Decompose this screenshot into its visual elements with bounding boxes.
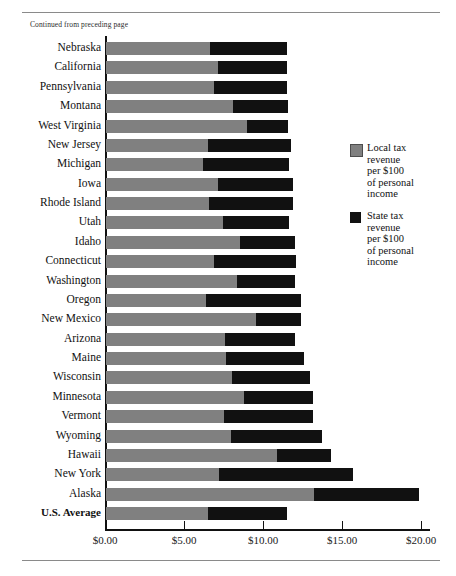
legend-swatch-local-tax (350, 144, 363, 157)
bar-segment-state-tax (218, 178, 293, 191)
bar-segment-state-tax (232, 371, 310, 384)
bar-segment-local-tax (106, 507, 208, 520)
top-divider (22, 12, 440, 13)
bar-segment-local-tax (106, 139, 208, 152)
category-label: Idaho (75, 235, 101, 247)
category-label: Connecticut (45, 254, 101, 266)
category-label: Rhode Island (40, 196, 101, 208)
category-label: Michigan (57, 157, 101, 169)
category-label: Wyoming (56, 429, 101, 441)
category-label: Alaska (69, 487, 101, 499)
category-label: Utah (79, 215, 101, 227)
bar-segment-state-tax (240, 236, 295, 249)
category-label: West Virginia (38, 119, 101, 131)
legend-item: Local taxrevenueper $100of personalincom… (350, 142, 454, 200)
bar-segment-local-tax (106, 488, 314, 501)
category-label: Minnesota (52, 390, 101, 402)
category-label: U.S. Average (41, 506, 101, 518)
legend-label: Local taxrevenueper $100of personalincom… (367, 142, 454, 200)
bar-segment-local-tax (106, 352, 226, 365)
x-axis-tick-label: $10.00 (248, 534, 278, 546)
bar-segment-state-tax (208, 507, 287, 520)
bar-segment-state-tax (244, 391, 313, 404)
bar-segment-state-tax (219, 468, 353, 481)
bar-segment-local-tax (106, 275, 237, 288)
bar-segment-local-tax (106, 449, 277, 462)
chart-page: Continued from preceding page NebraskaCa… (0, 0, 456, 576)
category-label: Wisconsin (53, 370, 101, 382)
bar-segment-state-tax (237, 275, 295, 288)
category-label: Vermont (61, 409, 101, 421)
category-label: Montana (60, 99, 101, 111)
x-axis-tick-label: $5.00 (172, 534, 197, 546)
bar-segment-state-tax (277, 449, 331, 462)
bar-segment-local-tax (106, 158, 203, 171)
category-label: Iowa (78, 177, 101, 189)
legend-label: State taxrevenueper $100of personalincom… (367, 210, 454, 268)
category-label: New Jersey (48, 138, 101, 150)
category-label: New York (54, 467, 101, 479)
bar-segment-local-tax (106, 100, 233, 113)
category-label: New Mexico (41, 312, 101, 324)
bar-segment-local-tax (106, 371, 232, 384)
x-axis-tick (421, 521, 422, 530)
category-label: Maine (72, 351, 101, 363)
category-label: California (54, 60, 101, 72)
bar-segment-local-tax (106, 294, 206, 307)
category-label: Nebraska (58, 41, 101, 53)
x-axis-tick-label: $15.00 (327, 534, 357, 546)
continued-note: Continued from preceding page (30, 20, 128, 29)
bar-segment-state-tax (226, 352, 305, 365)
bar-segment-local-tax (106, 391, 244, 404)
bar-segment-local-tax (106, 178, 218, 191)
chart-plot-area: $0.00$5.00$10.00$15.00$20.00 (105, 36, 440, 530)
bar-segment-local-tax (106, 61, 218, 74)
category-label: Pennsylvania (40, 80, 101, 92)
category-label: Oregon (67, 293, 102, 305)
category-label: Washington (46, 274, 101, 286)
bar-segment-state-tax (214, 255, 296, 268)
category-label: Hawaii (68, 448, 101, 460)
bar-segment-state-tax (233, 100, 288, 113)
bar-segment-state-tax (225, 333, 295, 346)
bar-segment-state-tax (203, 158, 289, 171)
legend-item: State taxrevenueper $100of personalincom… (350, 210, 454, 268)
category-axis-labels: NebraskaCaliforniaPennsylvaniaMontanaWes… (0, 36, 101, 530)
bar-segment-local-tax (106, 430, 231, 443)
bar-segment-local-tax (106, 236, 240, 249)
legend-swatch-state-tax (350, 212, 361, 223)
bar-segment-state-tax (210, 42, 287, 55)
bottom-divider (22, 560, 440, 561)
bar-segment-local-tax (106, 197, 209, 210)
bar-segment-state-tax (231, 430, 322, 443)
bar-segment-local-tax (106, 410, 224, 423)
category-label: Arizona (64, 332, 101, 344)
bar-segment-local-tax (106, 255, 214, 268)
bar-segment-state-tax (223, 216, 289, 229)
bar-segment-local-tax (106, 120, 247, 133)
bar-segment-state-tax (314, 488, 419, 501)
bar-segment-local-tax (106, 42, 210, 55)
bar-segment-state-tax (218, 61, 287, 74)
bar-segment-state-tax (214, 81, 287, 94)
bar-segment-local-tax (106, 216, 223, 229)
bar-segment-local-tax (106, 468, 219, 481)
bar-segment-state-tax (208, 139, 291, 152)
bar-segment-state-tax (206, 294, 301, 307)
bar-segment-state-tax (247, 120, 288, 133)
bar-segment-local-tax (106, 333, 225, 346)
bar-segment-local-tax (106, 313, 256, 326)
bar-segment-state-tax (224, 410, 313, 423)
bar-segment-state-tax (256, 313, 301, 326)
x-axis-tick-label: $20.00 (406, 534, 436, 546)
x-axis-tick-label: $0.00 (93, 534, 118, 546)
chart-legend: Local taxrevenueper $100of personalincom… (350, 142, 454, 278)
bars-container (105, 36, 440, 530)
x-axis-tick (342, 521, 343, 530)
bar-segment-local-tax (106, 81, 214, 94)
x-axis-tick (184, 521, 185, 530)
x-axis-tick (263, 521, 264, 530)
bar-segment-state-tax (209, 197, 293, 210)
